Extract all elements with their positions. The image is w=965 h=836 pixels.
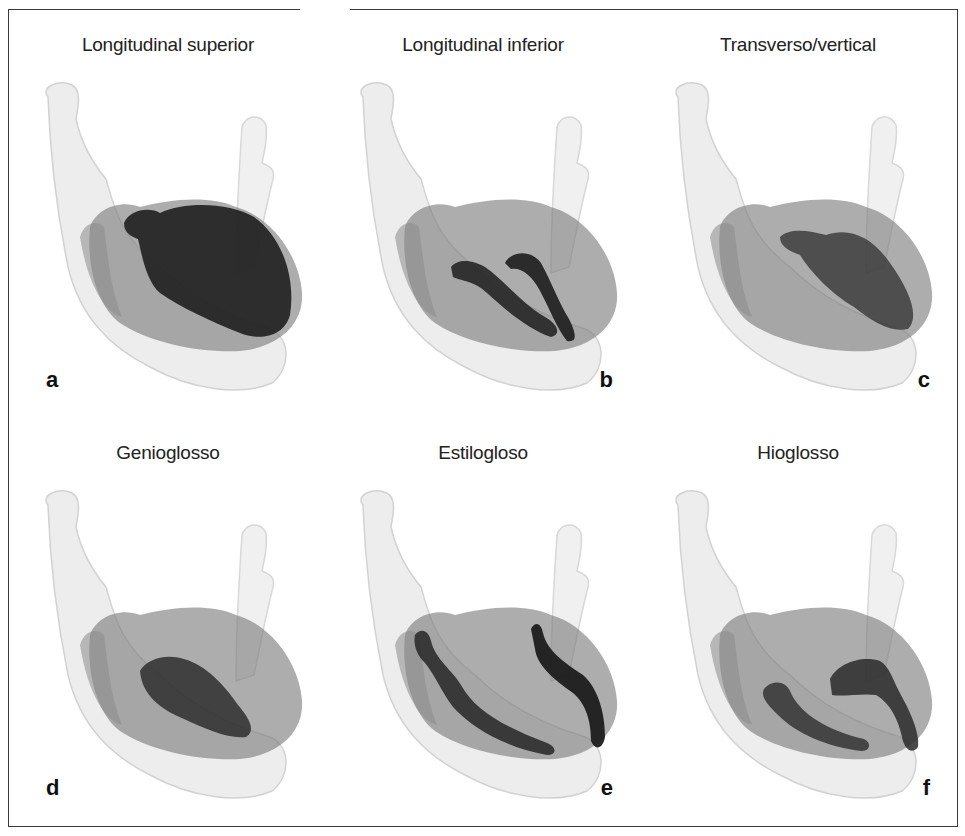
mandible-tongue-render-d bbox=[10, 475, 326, 805]
panel-letter: d bbox=[46, 775, 59, 801]
panel-title: Hioglosso bbox=[640, 442, 956, 464]
mandible-tongue-render-b bbox=[325, 67, 641, 397]
panel-letter: f bbox=[923, 775, 930, 801]
panel-title: Genioglosso bbox=[10, 442, 326, 464]
panel-e: Estilogloso e bbox=[325, 420, 641, 815]
panel-letter: a bbox=[46, 367, 58, 393]
mandible-tongue-render-a bbox=[10, 67, 326, 397]
panel-d: Genioglosso d bbox=[10, 420, 326, 815]
panel-letter: b bbox=[600, 367, 613, 393]
panel-b: Longitudinal inferior b bbox=[325, 12, 641, 407]
panel-title: Longitudinal superior bbox=[10, 34, 326, 56]
panel-a: Longitudinal superior a bbox=[10, 12, 326, 407]
panel-f: Hioglosso f bbox=[640, 420, 956, 815]
panel-letter: e bbox=[601, 775, 613, 801]
panel-title: Longitudinal inferior bbox=[325, 34, 641, 56]
panel-title: Transverso/vertical bbox=[640, 34, 956, 56]
panel-letter: c bbox=[918, 367, 930, 393]
panel-title: Estilogloso bbox=[325, 442, 641, 464]
mandible-tongue-render-e bbox=[325, 475, 641, 805]
mandible-tongue-render-f bbox=[640, 475, 956, 805]
panel-c: Transverso/vertical c bbox=[640, 12, 956, 407]
mandible-tongue-render-c bbox=[640, 67, 956, 397]
